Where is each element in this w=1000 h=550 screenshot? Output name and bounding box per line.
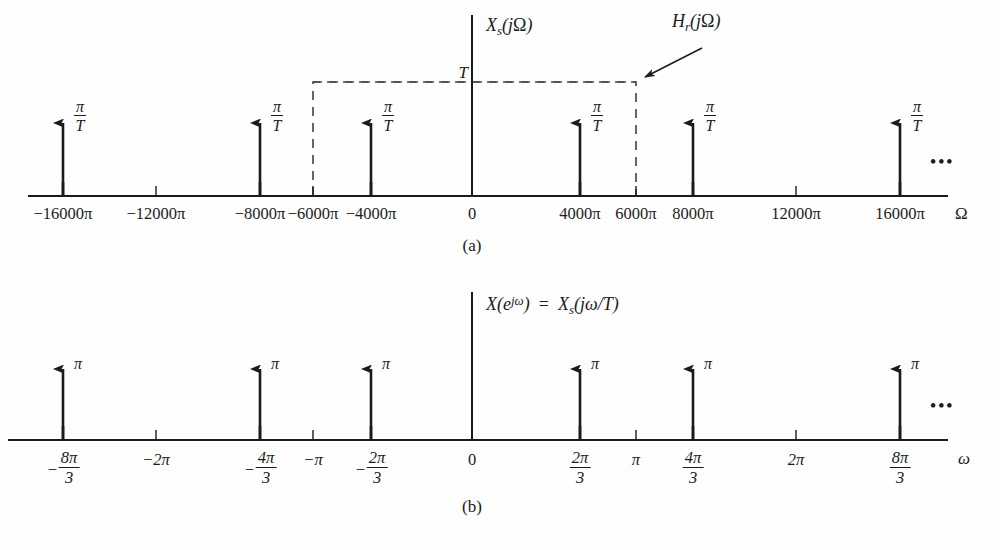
- panel-a-amplitude-label: πT: [382, 98, 394, 135]
- panel-a-amplitude-label: πT: [74, 98, 86, 135]
- panel-b-amplitude-label: π: [911, 356, 919, 372]
- panel-b-tick-label: −4π3: [244, 449, 277, 487]
- panel-b-impulses: [63, 369, 900, 440]
- panel-b-graphics: [8, 292, 948, 440]
- panel-a-x-axis-symbol: Ω: [955, 205, 968, 222]
- panel-a-graphics: [28, 15, 948, 196]
- panel-b-amplitude-label: π: [74, 356, 82, 372]
- panel-a-y-axis-label: Xs(jΩ): [486, 16, 532, 38]
- panel-a-ellipsis: •••: [930, 152, 954, 171]
- panel-a-tick-label: 12000π: [771, 206, 821, 223]
- panel-a-impulses: [63, 123, 900, 196]
- panel-b-amplitude-label: π: [704, 356, 712, 372]
- panel-a-tick-label: 8000π: [672, 206, 713, 223]
- filter-label: Hr(jΩ): [672, 12, 720, 34]
- panel-b-tick-label: 4π3: [683, 449, 704, 487]
- panel-b-y-axis-label: X(ejω) = Xs(jω/T): [486, 295, 619, 317]
- panel-b-tick-label: −π: [303, 452, 322, 469]
- panel-b-x-axis-symbol: ω: [958, 450, 970, 467]
- panel-b-amplitude-label: π: [591, 356, 599, 372]
- panel-a-amplitude-label: πT: [591, 98, 603, 135]
- panel-b-tick-label: −2π: [142, 452, 170, 469]
- panel-a-tick-label: 0: [468, 206, 476, 223]
- panel-b-tick-label: 0: [468, 452, 476, 469]
- panel-b-tick-label: −8π3: [47, 449, 80, 487]
- panel-b-tick-label: 8π3: [890, 449, 911, 487]
- panel-b-amplitude-label: π: [382, 356, 390, 372]
- filter-leader-line: [645, 48, 702, 77]
- panel-a-tick-label: −6000π: [288, 206, 339, 223]
- panel-a-amplitude-label: πT: [911, 98, 923, 135]
- panel-b-tick-label: 2π: [788, 452, 805, 469]
- panel-a-amplitude-label: πT: [271, 98, 283, 135]
- filter-gain-label: T: [459, 64, 468, 81]
- panel-b-ellipsis: •••: [930, 396, 954, 415]
- panel-a-amplitude-label: πT: [704, 98, 716, 135]
- panel-a-tick-label: −8000π: [235, 206, 286, 223]
- panel-b-tick-label: −2π3: [355, 449, 388, 487]
- panel-a-tick-label: −16000π: [34, 206, 93, 223]
- panel-a-tick-label: −4000π: [346, 206, 397, 223]
- reconstruction-filter-outline: [313, 82, 636, 196]
- panel-a-tick-label: 6000π: [615, 206, 656, 223]
- figure-root: Xs(jΩ) Hr(jΩ) T Ω πT πT πT πT πT πT ••• …: [0, 0, 1000, 550]
- panel-a-tick-label: −12000π: [127, 206, 186, 223]
- panel-a-tick-label: 16000π: [875, 206, 925, 223]
- panel-b-ticks: [63, 426, 900, 440]
- panel-a-tick-label: 4000π: [559, 206, 600, 223]
- panel-b-amplitude-label: π: [271, 356, 279, 372]
- panel-b-tick-label: 2π3: [570, 449, 591, 487]
- panel-b-caption: (b): [462, 498, 482, 515]
- panel-a-caption: (a): [463, 237, 482, 254]
- panel-b-tick-label: π: [632, 452, 640, 469]
- panel-a-ticks: [63, 182, 900, 196]
